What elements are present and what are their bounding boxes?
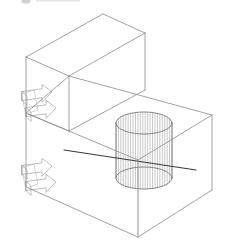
upper-enclosure-edge-0 bbox=[103, 14, 145, 33]
upper-enclosure bbox=[26, 14, 145, 131]
cropped-header-mark bbox=[22, 0, 81, 4]
drawing-canvas bbox=[0, 0, 226, 248]
upper-enclosure-edge-1 bbox=[26, 14, 103, 57]
lower-arrow-in-body bbox=[22, 158, 52, 176]
upper-enclosure-edge-2 bbox=[26, 57, 69, 76]
upper-enclosure-edge-8 bbox=[69, 90, 145, 131]
cylinder-bottom-ellipse bbox=[116, 167, 172, 189]
wireframe-cylinder bbox=[116, 112, 172, 189]
lower-enclosure bbox=[26, 76, 212, 237]
flow-arrow-group bbox=[22, 84, 56, 195]
lower-arrow-out-body bbox=[26, 174, 56, 192]
lower-enclosure-edge-0 bbox=[69, 76, 212, 115]
reference-axes bbox=[64, 150, 196, 237]
lower-enclosure-edge-7 bbox=[26, 187, 138, 237]
lower-enclosure-edge-3 bbox=[138, 115, 212, 160]
upper-enclosure-edge-3 bbox=[69, 33, 145, 76]
upper-arrow-in-body bbox=[22, 84, 52, 102]
lower-enclosure-edge-1 bbox=[26, 76, 69, 113]
lower-enclosure-edge-8 bbox=[138, 190, 212, 237]
diagonal-axis-line bbox=[64, 150, 196, 170]
wireframe-drawing bbox=[0, 0, 226, 248]
cylinder-top-ellipse bbox=[116, 112, 172, 134]
